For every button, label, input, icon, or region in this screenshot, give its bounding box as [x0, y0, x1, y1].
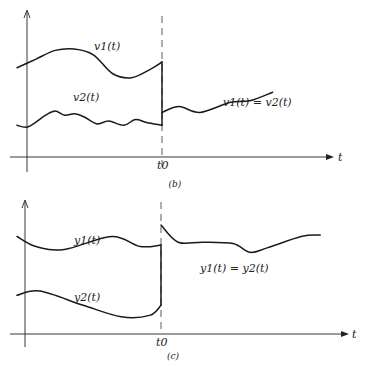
label-y2: y2(t) — [73, 291, 100, 304]
caption-c: (c) — [167, 351, 180, 361]
curve-v2 — [17, 111, 162, 127]
label-t0-c: t0 — [156, 336, 167, 349]
curve-y-merged — [161, 225, 320, 252]
label-t0-b: t0 — [157, 159, 168, 172]
label-v-merged: v1(t) = v2(t) — [223, 96, 292, 109]
label-v2: v2(t) — [73, 91, 99, 104]
caption-b: (b) — [169, 179, 182, 189]
label-y1: y1(t) — [73, 234, 100, 247]
panel-b: v1(t) v2(t) v1(t) = v2(t) t0 t (b) — [10, 10, 343, 189]
label-v1: v1(t) — [94, 40, 120, 53]
curve-v1 — [17, 49, 162, 78]
label-t-c: t — [352, 328, 357, 341]
label-t-b: t — [338, 151, 343, 164]
label-y-merged: y1(t) = y2(t) — [199, 262, 269, 275]
diagram-canvas: v1(t) v2(t) v1(t) = v2(t) t0 t (b) y1(t)… — [0, 0, 366, 367]
t-axis-arrow-b — [326, 154, 334, 160]
t-axis-arrow-c — [341, 331, 349, 337]
panel-c: y1(t) y2(t) y1(t) = y2(t) t0 t (c) — [10, 200, 357, 361]
